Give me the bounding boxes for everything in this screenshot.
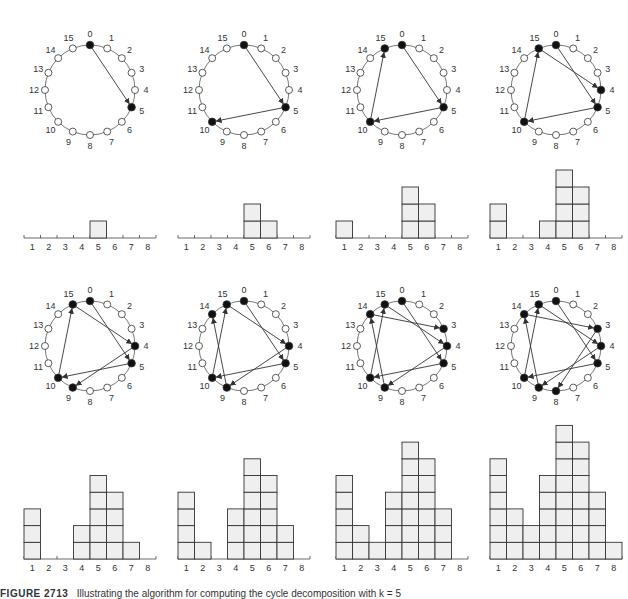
- node-label: 14: [45, 301, 55, 311]
- caption-label: FIGURE 2713: [0, 588, 68, 599]
- tick-label: 2: [358, 242, 363, 252]
- histogram-cell: [74, 542, 91, 559]
- arrow: [213, 318, 226, 385]
- histogram-cell: [107, 509, 124, 526]
- histogram: 12345678: [0, 160, 160, 260]
- node-label: 14: [45, 45, 55, 55]
- node-label: 3: [139, 320, 144, 330]
- node-label: 5: [451, 362, 456, 372]
- node-13: [45, 69, 52, 76]
- histogram-cell: [386, 542, 403, 559]
- histogram-cell: [336, 476, 353, 493]
- node-6: [272, 374, 279, 381]
- node-label: 3: [293, 320, 298, 330]
- node-label: 7: [263, 393, 268, 403]
- node-label: 13: [33, 64, 43, 74]
- node-label: 5: [605, 106, 610, 116]
- histogram-cell: [90, 221, 107, 238]
- histogram-cell: [90, 526, 107, 543]
- histogram-cell: [90, 542, 107, 559]
- tick-label: 3: [63, 563, 68, 573]
- tick-label: 1: [342, 563, 347, 573]
- node-label: 5: [139, 106, 144, 116]
- histogram-cell: [228, 542, 245, 559]
- cycle-diagram: 0123456789101112131415: [466, 268, 626, 428]
- node-6: [430, 118, 437, 125]
- arrow: [527, 315, 594, 328]
- node-7: [258, 384, 265, 391]
- node-label: 0: [553, 285, 558, 295]
- histogram-cell: [336, 542, 353, 559]
- node-4: [597, 86, 605, 94]
- node-14: [521, 55, 528, 62]
- histogram-cell: [573, 509, 590, 526]
- arrow: [216, 108, 283, 121]
- node-2: [118, 55, 125, 62]
- tick-label: 3: [375, 242, 380, 252]
- histogram-cell: [123, 542, 140, 559]
- histogram-cell: [402, 526, 419, 543]
- tick-label: 6: [266, 242, 271, 252]
- node-5: [282, 103, 290, 111]
- histogram-cell: [435, 542, 452, 559]
- tick-label: 3: [63, 242, 68, 252]
- node-7: [258, 128, 265, 135]
- histogram-cell: [244, 509, 261, 526]
- histogram-cell: [195, 542, 212, 559]
- node-label: 13: [33, 320, 43, 330]
- node-label: 10: [199, 381, 209, 391]
- tick-label: 8: [457, 563, 462, 573]
- histogram-cell: [244, 492, 261, 509]
- caption-text: Illustrating the algorithm for computing…: [77, 588, 401, 599]
- node-1: [104, 301, 111, 308]
- node-label: 6: [281, 381, 286, 391]
- node-label: 8: [87, 141, 92, 151]
- histogram-cell: [24, 542, 41, 559]
- node-6: [118, 118, 125, 125]
- node-1: [258, 301, 265, 308]
- histogram-cell: [540, 526, 557, 543]
- node-3: [282, 325, 289, 332]
- node-label: 14: [357, 45, 367, 55]
- node-label: 12: [341, 341, 351, 351]
- node-label: 10: [357, 381, 367, 391]
- node-label: 6: [593, 381, 598, 391]
- tick-label: 4: [391, 242, 396, 252]
- node-label: 1: [109, 33, 114, 43]
- node-4: [597, 342, 605, 350]
- node-label: 13: [499, 320, 509, 330]
- histogram-cell: [589, 526, 606, 543]
- histogram-cell: [336, 221, 353, 238]
- node-9: [223, 128, 230, 135]
- histogram-cell: [523, 526, 540, 543]
- node-label: 4: [609, 341, 614, 351]
- node-14: [520, 310, 528, 318]
- node-2: [272, 55, 279, 62]
- tick-label: 3: [217, 242, 222, 252]
- node-8: [87, 132, 94, 139]
- node-label: 2: [593, 45, 598, 55]
- tick-label: 4: [545, 563, 550, 573]
- node-label: 3: [139, 64, 144, 74]
- tick-label: 2: [46, 563, 51, 573]
- node-3: [282, 69, 289, 76]
- histogram-cell: [556, 187, 573, 204]
- histogram-cell: [556, 442, 573, 459]
- tick-label: 2: [200, 242, 205, 252]
- tick-label: 5: [96, 563, 101, 573]
- node-3: [128, 325, 135, 332]
- node-0: [552, 41, 560, 49]
- histogram-cell: [261, 221, 278, 238]
- histogram-cell: [402, 204, 419, 221]
- histogram-cell: [490, 476, 507, 493]
- histogram-cell: [523, 542, 540, 559]
- node-label: 8: [553, 141, 558, 151]
- node-label: 15: [218, 33, 228, 43]
- node-9: [381, 128, 388, 135]
- node-13: [357, 69, 364, 76]
- node-12: [42, 87, 49, 94]
- histogram-cell: [228, 509, 245, 526]
- arrow: [216, 364, 283, 377]
- node-3: [440, 325, 448, 333]
- node-label: 15: [376, 33, 386, 43]
